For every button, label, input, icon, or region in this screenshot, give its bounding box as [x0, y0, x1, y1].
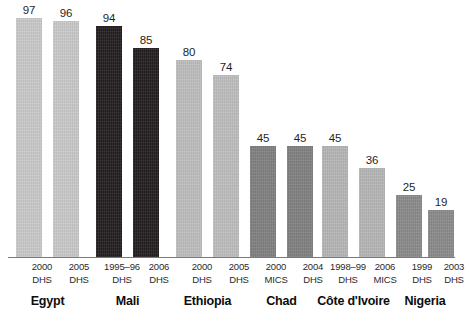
bar-slot: 45 [287, 126, 313, 257]
bar[interactable] [396, 195, 422, 257]
bar-value-label: 25 [388, 181, 430, 193]
bar[interactable] [428, 210, 454, 257]
bar[interactable] [213, 75, 239, 257]
bar-slot: 25 [396, 175, 422, 257]
country-label: Nigeria [355, 293, 469, 309]
tick-year: 2003 [428, 261, 469, 273]
bar[interactable] [16, 18, 42, 257]
bar-slot: 45 [322, 126, 348, 257]
bar-slot: 45 [250, 126, 276, 257]
bar-slot: 94 [96, 6, 122, 257]
tick-label-row: 2000DHS2005DHS1995–96DHS2006DHS2000DHS20… [0, 261, 463, 291]
bar[interactable] [287, 146, 313, 257]
bar-value-label: 19 [420, 196, 462, 208]
bar[interactable] [53, 21, 79, 257]
bar-value-label: 97 [8, 4, 50, 16]
bar[interactable] [250, 146, 276, 257]
plot-area: 979694858074454545362519 [0, 0, 463, 258]
bar-slot: 97 [16, 0, 42, 257]
bar-value-label: 85 [125, 34, 167, 46]
bar-value-label: 45 [242, 132, 284, 144]
bar-slot: 36 [359, 148, 385, 257]
tick-survey: DHS [428, 273, 469, 286]
country-label-row: EgyptMaliEthiopiaChadCôte d'IvoireNigeri… [0, 293, 463, 313]
bar[interactable] [176, 60, 202, 257]
bar[interactable] [96, 26, 122, 257]
tick-label: 2003DHS [428, 261, 469, 286]
bar-slot: 74 [213, 55, 239, 257]
bar-value-label: 96 [45, 7, 87, 19]
bar[interactable] [359, 168, 385, 257]
bar-value-label: 80 [168, 46, 210, 58]
bar-value-label: 94 [88, 12, 130, 24]
bar-slot: 96 [53, 1, 79, 257]
bar-slot: 19 [428, 190, 454, 257]
bar-slot: 85 [133, 28, 159, 257]
bar[interactable] [133, 48, 159, 257]
bar-value-label: 36 [351, 154, 393, 166]
x-axis-line [8, 257, 455, 258]
bar-slot: 80 [176, 40, 202, 257]
bar-value-label: 74 [205, 61, 247, 73]
bar-value-label: 45 [314, 132, 356, 144]
bar[interactable] [322, 146, 348, 257]
